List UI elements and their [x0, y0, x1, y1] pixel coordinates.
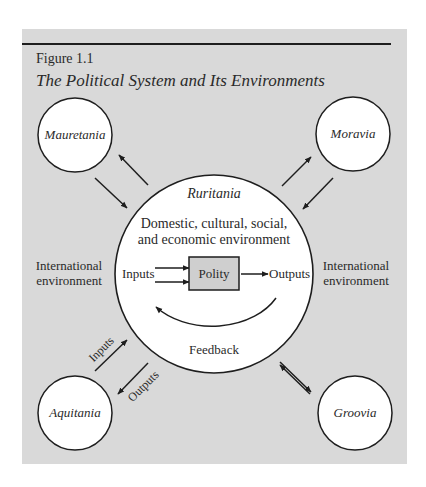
external-system-label: Groovia	[334, 405, 377, 420]
figure-label: Figure 1.1	[36, 51, 94, 66]
external-system-label: Moravia	[330, 126, 376, 141]
external-system-groovia: Groovia	[318, 376, 392, 450]
figure-title: The Political System and Its Environment…	[36, 71, 325, 90]
external-system-moravia: Moravia	[316, 97, 390, 171]
external-system-aquitania: Aquitania	[38, 376, 112, 450]
external-system-label: Mauretania	[44, 127, 106, 142]
international-environment-right-line2: environment	[323, 273, 389, 288]
feedback-label: Feedback	[189, 342, 239, 357]
figure-container: Figure 1.1 The Political System and Its …	[0, 0, 426, 487]
central-system-name: Ruritania	[186, 186, 241, 201]
external-system-label: Aquitania	[48, 405, 101, 420]
international-environment-left-line2: environment	[36, 273, 102, 288]
domestic-environment-line1: Domestic, cultural, social,	[141, 216, 288, 231]
inputs-label: Inputs	[122, 266, 155, 281]
outputs-label: Outputs	[269, 266, 310, 281]
international-environment-right-line1: International	[323, 258, 390, 273]
domestic-environment-line2: and economic environment	[138, 232, 291, 247]
external-system-mauretania: Mauretania	[38, 98, 112, 172]
political-system-diagram: Figure 1.1 The Political System and Its …	[0, 0, 426, 487]
international-environment-left-line1: International	[36, 258, 103, 273]
polity-label: Polity	[198, 266, 230, 281]
